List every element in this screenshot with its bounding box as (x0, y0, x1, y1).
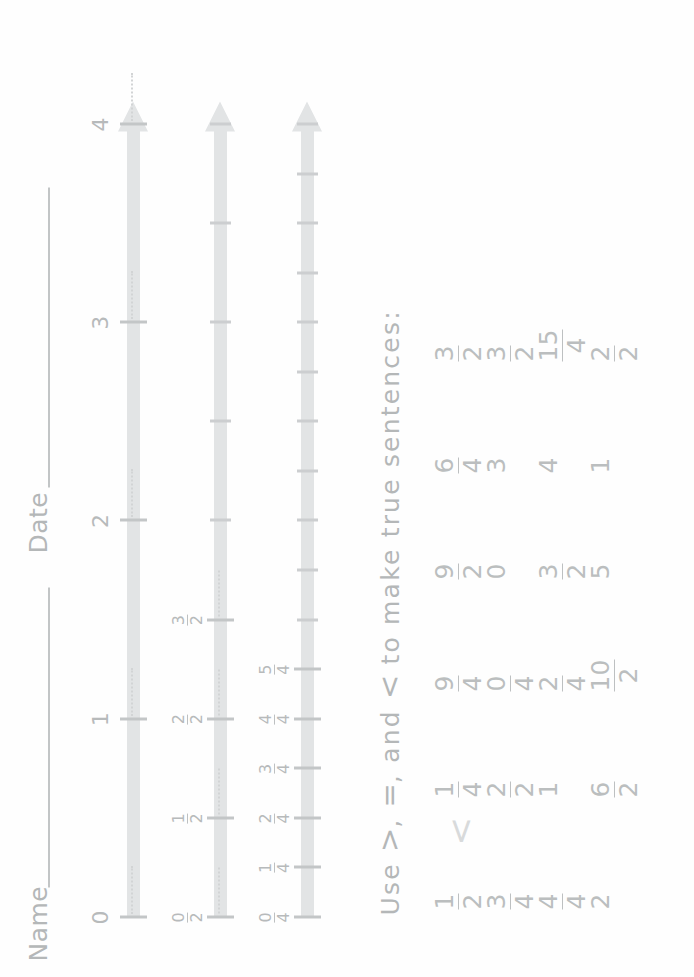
tick-leader-dots (218, 570, 220, 616)
comparison-answer-blank[interactable] (436, 587, 480, 639)
left-term-fraction: 94 (432, 675, 485, 691)
tick-leader-dots (131, 469, 133, 517)
left-term-denominator: 4 (510, 675, 538, 691)
right-term-fraction: 32 (432, 345, 485, 361)
tick-label-fraction: 02 (171, 912, 206, 922)
left-term-numerator: 1 (432, 893, 458, 909)
right-term-whole: 5 (586, 563, 615, 579)
left-term-denominator: 4 (562, 675, 590, 691)
tick-major (207, 618, 234, 621)
comparison-answer-blank[interactable] (540, 805, 584, 857)
right-term-numerator: 2 (588, 345, 614, 361)
tick-label: 04 (258, 912, 293, 922)
right-term-fraction: 22 (588, 345, 641, 361)
tick-leader-dots (218, 669, 220, 715)
number-line-halves: 02122232 (205, 72, 235, 917)
tick-major (294, 766, 321, 769)
comparison-answer-blank[interactable] (540, 369, 584, 421)
left-term-numerator: 10 (588, 659, 614, 691)
comparison-answer-blank[interactable] (488, 805, 532, 857)
comparison-answer-blank[interactable] (592, 369, 636, 421)
tick-label-fraction: 12 (171, 813, 206, 823)
left-term-denominator: 4 (458, 675, 486, 691)
left-term-whole: 3 (482, 457, 511, 473)
equals-symbol: = (372, 783, 406, 807)
tick-label-denominator: 4 (274, 763, 292, 773)
tick-major (120, 320, 147, 323)
date-write-line[interactable] (48, 187, 50, 487)
exercise-right-term: 62 (588, 781, 641, 797)
right-term-numerator: 2 (484, 781, 510, 797)
exercise-left-term: 94 (432, 675, 485, 691)
tick-major (294, 915, 321, 918)
left-term-fraction: 24 (536, 675, 589, 691)
left-term-denominator: 2 (458, 893, 486, 909)
exercise-right-term: 22 (484, 781, 537, 797)
tick-major (207, 717, 234, 720)
exercise-item: 1025 (588, 501, 640, 697)
comparison-answer-blank[interactable]: < (436, 805, 480, 857)
comparison-answer-blank[interactable] (488, 369, 532, 421)
tick-leader-dots (218, 867, 220, 913)
left-term-fraction: 12 (432, 893, 485, 909)
right-term-denominator: 2 (614, 781, 642, 797)
comparison-answer-blank[interactable] (436, 369, 480, 421)
right-term-fraction: 92 (432, 563, 485, 579)
arrow-head-icon (118, 101, 148, 131)
tick-label-denominator: 2 (187, 912, 205, 922)
tick-label: 12 (171, 813, 206, 823)
tick-label-fraction: 32 (171, 615, 206, 625)
exercise-right-term: 14 (432, 781, 485, 797)
tick-label-denominator: 2 (187, 813, 205, 823)
comparison-answer-blank[interactable] (540, 587, 584, 639)
name-write-line[interactable] (48, 587, 50, 887)
tick-leader-dots (131, 865, 133, 913)
exercise-right-term: 154 (536, 329, 589, 361)
tick-label-numerator: 0 (171, 912, 187, 922)
left-term-fraction: 34 (484, 893, 537, 909)
tick-major (294, 667, 321, 670)
tick-label: 44 (258, 714, 293, 724)
tick-label-numerator: 3 (258, 763, 274, 773)
left-term-numerator: 9 (432, 675, 458, 691)
instruction-suffix: to make true sentences: (376, 309, 405, 674)
exercise-item: 6432 (432, 283, 484, 479)
right-term-whole: 1 (534, 781, 563, 797)
tick-label-fraction: 54 (258, 664, 293, 674)
left-term-whole: 2 (586, 893, 615, 909)
tick-major (120, 122, 147, 125)
exercise-left-term: 3 (484, 457, 509, 473)
tick-major (294, 865, 321, 868)
exercise-grid: 12<1434224412629492040243210256432332415… (432, 47, 672, 915)
tick-label: 22 (171, 714, 206, 724)
tick-major (294, 816, 321, 819)
tick-minor (210, 122, 231, 125)
comparison-answer-blank[interactable] (488, 587, 532, 639)
name-label: Name (24, 885, 53, 961)
comparison-answer-blank[interactable] (592, 805, 636, 857)
tick-label: 32 (171, 615, 206, 625)
tick-label-denominator: 2 (187, 615, 205, 625)
tick-minor (210, 320, 231, 323)
right-term-numerator: 15 (536, 329, 562, 361)
tick-minor (210, 519, 231, 522)
comparison-answer-blank[interactable] (592, 587, 636, 639)
exercise-left-term: 04 (484, 675, 537, 691)
left-term-denominator: 2 (614, 659, 642, 691)
tick-minor (297, 469, 318, 472)
tick-minor (297, 172, 318, 175)
right-term-fraction: 154 (536, 329, 589, 361)
exercise-left-term: 44 (536, 893, 589, 909)
left-term-numerator: 4 (536, 893, 562, 909)
tick-minor (297, 419, 318, 422)
tick-minor (297, 221, 318, 224)
worksheet-header: Name Date (18, 0, 64, 977)
date-label: Date (24, 491, 53, 553)
right-term-denominator: 2 (614, 345, 642, 361)
tick-label-fraction: 14 (258, 862, 293, 872)
exercise-left-term: 2 (588, 893, 613, 909)
tick-label: 02 (171, 912, 206, 922)
answer-trace-glyph: < (440, 817, 480, 846)
left-term-denominator: 4 (510, 893, 538, 909)
left-term-whole: 4 (534, 457, 563, 473)
